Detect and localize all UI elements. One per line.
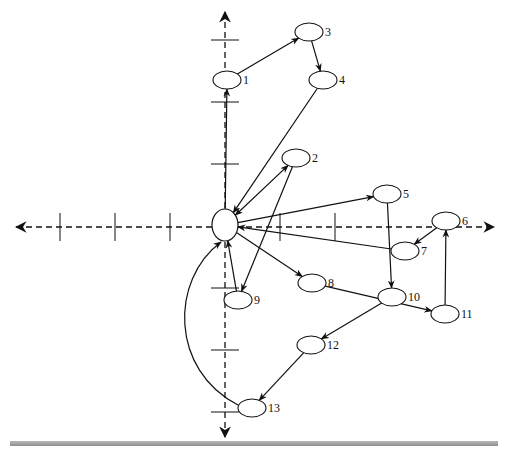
edge-center-to-5 (238, 197, 374, 223)
edge-5-to-10 (387, 203, 391, 288)
edge-1-to-3 (237, 38, 298, 74)
node-ellipse (373, 185, 401, 203)
node-label: 13 (268, 401, 280, 415)
node-ellipse (295, 23, 323, 41)
edge-center-to-8 (236, 233, 302, 277)
bottom-divider-bar (10, 441, 498, 446)
node-label: 2 (312, 151, 318, 165)
edge-11-to-6 (445, 230, 446, 305)
node-ellipse (431, 305, 459, 323)
node-ellipse (298, 274, 326, 292)
node-1: 1 (213, 71, 249, 89)
node-ellipse (432, 212, 460, 230)
node-ellipse (297, 336, 325, 354)
axes (16, 12, 494, 437)
edge-13-to-center (185, 242, 238, 405)
node-10: 10 (378, 288, 420, 306)
edge-7-to-center (238, 227, 391, 249)
edge-center-to-2 (235, 165, 288, 215)
node-label: 10 (408, 290, 420, 304)
node-ellipse (213, 71, 241, 89)
node-13: 13 (238, 399, 280, 417)
node-label: 9 (254, 293, 260, 307)
node-label: 12 (327, 338, 339, 352)
edge-6-to-7 (414, 228, 437, 244)
node-ellipse (224, 291, 252, 309)
node-label: 4 (339, 73, 345, 87)
edge-9-to-center (228, 241, 237, 291)
center-node (212, 209, 238, 241)
node-ellipse (282, 149, 310, 167)
node-label: 5 (403, 187, 409, 201)
node-ellipse (378, 288, 406, 306)
edge-10-to-12 (321, 303, 381, 339)
node-label: 6 (462, 214, 468, 228)
node-label: 3 (325, 25, 331, 39)
node-8: 8 (298, 274, 334, 292)
node-label: 7 (421, 244, 427, 258)
graph-diagram: 12345678910111213 (0, 0, 507, 450)
node-2: 2 (282, 149, 318, 167)
node-4: 4 (309, 71, 345, 89)
node-label: 8 (328, 276, 334, 290)
node-9: 9 (224, 291, 260, 309)
edge-12-to-13 (259, 353, 304, 401)
node-3: 3 (295, 23, 331, 41)
node-6: 6 (432, 212, 468, 230)
node-label: 1 (243, 73, 249, 87)
node-7: 7 (391, 242, 427, 260)
node-label: 11 (461, 307, 473, 321)
node-11: 11 (431, 305, 473, 323)
node-12: 12 (297, 336, 339, 354)
node-ellipse (238, 399, 266, 417)
node-ellipse (391, 242, 419, 260)
node-ellipse (309, 71, 337, 89)
edge-3-to-4 (312, 41, 321, 71)
node-5: 5 (373, 185, 409, 203)
